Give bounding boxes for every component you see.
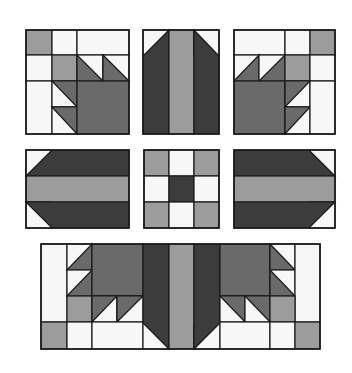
patch-square xyxy=(67,322,92,349)
patch-square xyxy=(310,30,335,55)
block-top-left-bear-paw xyxy=(26,30,129,134)
patch-square xyxy=(169,176,194,202)
patch-square xyxy=(52,55,77,81)
patch-square xyxy=(270,296,295,322)
patch-square xyxy=(26,30,52,55)
patch-square xyxy=(285,30,310,55)
patch-square xyxy=(270,322,295,349)
patch-square xyxy=(169,202,194,228)
patch-square xyxy=(285,55,310,81)
block-bottom-assembled-row xyxy=(41,244,320,349)
patch-square xyxy=(41,322,67,349)
patch-square xyxy=(26,176,129,202)
patch-square xyxy=(234,30,285,55)
patch-square xyxy=(92,322,143,349)
patch-square xyxy=(310,55,335,81)
patch-square xyxy=(144,150,169,176)
patch-square xyxy=(169,30,194,134)
patch-square xyxy=(26,55,52,81)
patch-square xyxy=(295,322,320,349)
block-center-nine-patch xyxy=(144,150,219,228)
quilt-diagram xyxy=(0,0,352,373)
patch-square xyxy=(194,176,219,202)
block-top-right-bear-paw xyxy=(234,30,335,134)
patch-square xyxy=(194,150,219,176)
patch-square xyxy=(77,30,129,55)
patch-square xyxy=(310,81,335,134)
patch-square xyxy=(169,150,194,176)
patch-square xyxy=(77,81,129,134)
patch-square xyxy=(144,176,169,202)
patch-square xyxy=(144,202,169,228)
patch-square xyxy=(234,81,285,134)
quilt-blocks xyxy=(26,30,335,349)
block-middle-left-strips xyxy=(26,150,129,228)
patch-square xyxy=(234,176,335,202)
patch-square xyxy=(295,244,320,322)
patch-square xyxy=(26,81,52,134)
patch-square xyxy=(92,244,143,296)
patch-square xyxy=(52,30,77,55)
patch-square xyxy=(169,244,194,349)
patch-square xyxy=(194,202,219,228)
patch-square xyxy=(220,322,270,349)
patch-square xyxy=(220,244,270,296)
patch-square xyxy=(67,296,92,322)
block-top-center-strips xyxy=(143,30,219,134)
patch-square xyxy=(41,244,67,322)
block-middle-right-strips xyxy=(234,150,335,228)
